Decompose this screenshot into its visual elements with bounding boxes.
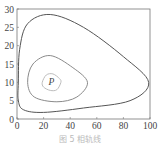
x-tick-label: 40 bbox=[65, 121, 75, 131]
y-tick-label: 30 bbox=[5, 5, 15, 15]
x-tick-label: 60 bbox=[92, 121, 102, 131]
orbits bbox=[18, 14, 149, 112]
y-tick-label: 5 bbox=[9, 96, 14, 106]
outer-orbit bbox=[18, 14, 149, 112]
y-tick-label: 20 bbox=[5, 41, 15, 51]
x-tick-label: 20 bbox=[39, 121, 49, 131]
x-tick-label: 80 bbox=[119, 121, 129, 131]
middle-orbit bbox=[28, 56, 88, 102]
plot-frame bbox=[17, 9, 150, 119]
y-tick-label: 0 bbox=[9, 115, 14, 125]
equilibrium-label-p: P bbox=[48, 77, 55, 87]
y-tick-label: 25 bbox=[5, 23, 15, 33]
figure-caption: 图 5 相轨线 bbox=[59, 134, 101, 144]
x-tick-label: 0 bbox=[15, 121, 20, 131]
phase-trajectory-chart: 051015202530 020406080100 P 图 5 相轨线 bbox=[0, 0, 160, 145]
y-tick-label: 10 bbox=[5, 78, 15, 88]
x-tick-label: 100 bbox=[143, 121, 158, 131]
y-tick-label: 15 bbox=[5, 60, 15, 70]
